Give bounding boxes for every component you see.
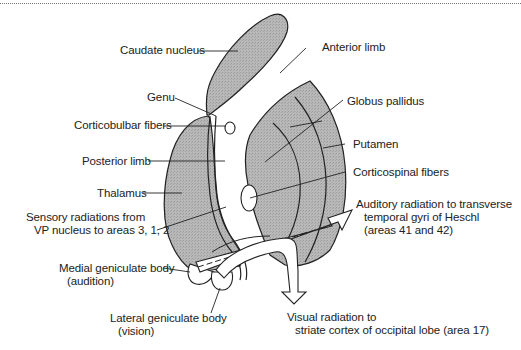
label-putamen: Putamen	[353, 138, 398, 151]
lateral-geniculate-line2: (vision)	[110, 325, 227, 338]
label-visual-radiation: Visual radiation to striate cortex of oc…	[287, 311, 489, 337]
label-globus-pallidus: Globus pallidus	[347, 95, 424, 108]
caudate-nucleus-shape	[206, 14, 287, 115]
label-caudate-nucleus: Caudate nucleus	[120, 44, 205, 57]
auditory-radiation-line3: (areas 41 and 42)	[356, 224, 512, 237]
visual-radiation-line1: Visual radiation to	[287, 311, 489, 324]
label-sensory-radiations: Sensory radiations from VP nucleus to ar…	[26, 211, 169, 237]
medial-geniculate-line1: Medial geniculate body	[59, 262, 174, 275]
label-thalamus: Thalamus	[97, 187, 147, 200]
medial-geniculate-line2: (audition)	[59, 275, 174, 288]
label-lateral-geniculate-body: Lateral geniculate body (vision)	[110, 312, 227, 338]
label-posterior-limb: Posterior limb	[82, 155, 151, 168]
lateral-geniculate-line1: Lateral geniculate body	[110, 312, 227, 325]
label-corticospinal-fibers: Corticospinal fibers	[353, 166, 449, 179]
label-genu: Genu	[147, 91, 175, 104]
putamen-shape	[245, 81, 346, 266]
auditory-radiation-line2: temporal gyri of Heschl	[356, 211, 512, 224]
visual-radiation-line2: striate cortex of occipital lobe (area 1…	[287, 324, 489, 337]
label-auditory-radiation: Auditory radiation to transverse tempora…	[356, 198, 512, 237]
sensory-radiations-line1: Sensory radiations from	[26, 211, 169, 224]
label-corticobulbar-fibers: Corticobulbar fibers	[74, 119, 172, 132]
label-anterior-limb: Anterior limb	[322, 41, 385, 54]
sensory-radiations-line2: VP nucleus to areas 3, 1, 2	[26, 224, 169, 237]
corticospinal-oval	[241, 185, 257, 211]
corticobulbar-oval	[225, 122, 235, 134]
auditory-radiation-line1: Auditory radiation to transverse	[356, 198, 512, 211]
label-medial-geniculate-body: Medial geniculate body (audition)	[59, 262, 174, 288]
